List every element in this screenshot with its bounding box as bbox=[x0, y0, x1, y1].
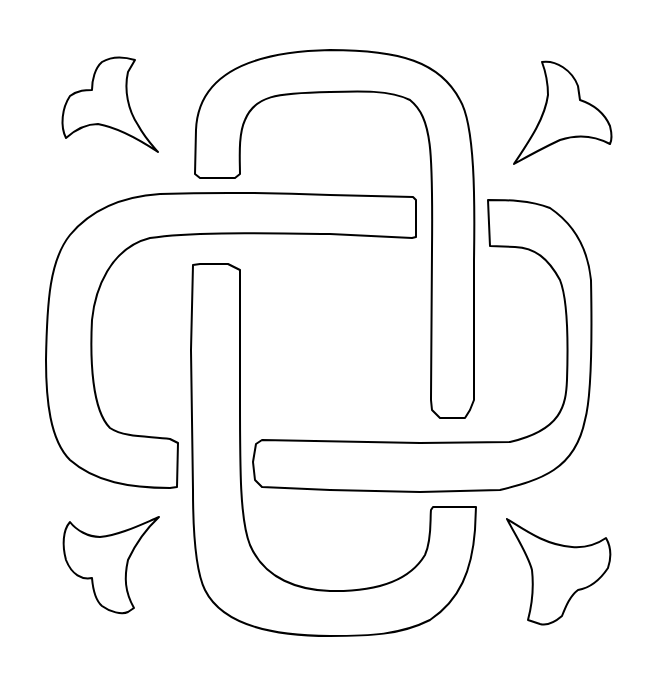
celtic-knot-drawing bbox=[0, 0, 655, 688]
bottom-band bbox=[191, 264, 476, 636]
leaf-bottom-left bbox=[64, 517, 159, 613]
left-band bbox=[46, 193, 416, 488]
right-band bbox=[253, 200, 591, 492]
leaf-top-left bbox=[63, 58, 158, 152]
leaf-bottom-right bbox=[507, 519, 610, 625]
leaf-top-right bbox=[514, 62, 612, 164]
